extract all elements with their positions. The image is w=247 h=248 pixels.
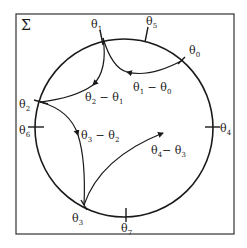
frame-box [16,14,234,234]
arrow-theta1-minus-theta0-tail [103,38,127,72]
label-theta6: θ6 [19,124,31,139]
label-theta5: θ5 [146,15,157,30]
frame-label-sigma: Σ [21,17,31,33]
arrow-theta1-minus-theta0 [127,60,183,74]
label-theta3-minus-theta2: θ3 − θ2 [81,129,119,144]
arrow-theta3-minus-theta2 [40,102,78,135]
label-theta4-minus-theta3: θ4− θ3 [151,144,186,159]
label-theta0: θ0 [189,44,200,59]
label-theta2-minus-theta1: θ2 − θ1 [85,91,123,106]
label-theta1: θ1 [91,18,102,33]
label-theta2: θ2 [19,98,30,113]
label-theta4: θ4 [220,122,232,137]
label-theta3: θ3 [72,212,83,227]
tick-theta5 [145,27,148,42]
circle [35,39,213,217]
arrow-theta3-minus-theta2-tail [78,135,84,205]
label-theta1-minus-theta0: θ1 − θ0 [133,81,171,96]
label-theta7: θ7 [121,222,132,237]
diagram-canvas: Σ θ1 θ5 θ0 θ2 θ6 θ4 θ3 θ7 θ1 − θ0 θ2 − θ… [0,0,247,248]
